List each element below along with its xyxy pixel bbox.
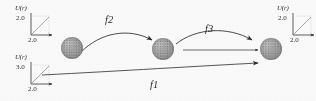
arrow-f3 — [176, 31, 252, 44]
inset-bottom-left-ylabel: U(r) — [15, 53, 27, 61]
inset-bottom-left-ytick: 3.0 — [16, 63, 25, 71]
sphere-middle — [152, 38, 174, 60]
inset-bottom-left-xtick: 2.0 — [28, 85, 37, 93]
label-f2: f2 — [105, 14, 113, 25]
inset-axes-top-left — [31, 13, 52, 35]
inset-top-right-ytick: 2.0 — [278, 14, 287, 22]
label-f3: f3 — [205, 23, 213, 34]
sphere-left — [61, 37, 83, 59]
label-f1: f1 — [150, 79, 158, 90]
inset-top-left-ylabel: U(r) — [15, 4, 27, 12]
inset-top-right-xtick: 2.0 — [290, 36, 299, 44]
physics-force-diagram: U(r) 2.0 2.0 U(r) 3.0 2.0 U(r) 2.0 2.0 f… — [0, 0, 316, 101]
inset-top-left-xtick: 2.0 — [28, 36, 37, 44]
arrow-f1 — [42, 63, 258, 75]
inset-axes-top-right — [293, 13, 314, 35]
inset-axes-bottom-left — [31, 62, 52, 84]
inset-top-left-ytick: 2.0 — [16, 14, 25, 22]
arrow-f2 — [81, 33, 152, 52]
sphere-right — [260, 38, 282, 60]
inset-top-right-ylabel: U(r) — [277, 4, 289, 12]
